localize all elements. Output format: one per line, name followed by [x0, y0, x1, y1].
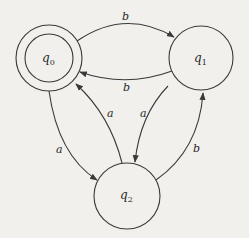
edge-q2-q0-label: a — [107, 107, 114, 120]
edge-q0-q2-label: a — [56, 143, 63, 156]
state-q2: q2 — [94, 163, 160, 229]
edge-q2-q0-a — [76, 84, 122, 163]
state-q0: q0 — [16, 25, 82, 91]
edge-q0-q1-label: b — [122, 10, 129, 23]
state-q1-label: q1 — [194, 51, 207, 67]
automaton-diagram: q0 q1 q2 b b a a a b — [0, 0, 249, 238]
edge-q2-q1-b — [156, 93, 203, 180]
state-q2-label: q2 — [120, 188, 133, 204]
state-q0-label: q0 — [42, 51, 55, 67]
edge-q1-q0-label: b — [123, 81, 130, 94]
edge-q0-q1-b — [77, 23, 174, 41]
edge-q2-q1-label: b — [193, 142, 200, 155]
edge-q1-q0-b — [80, 71, 172, 80]
state-q1: q1 — [169, 26, 233, 90]
edge-q1-q2-label: a — [140, 107, 147, 120]
edge-q1-q2-a — [135, 86, 168, 162]
edge-q0-q2-a — [49, 91, 97, 180]
